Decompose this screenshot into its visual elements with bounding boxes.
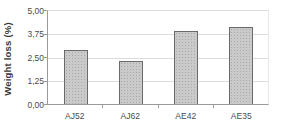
bar <box>119 61 143 104</box>
bars-container <box>48 11 268 104</box>
y-tick-label: 5,00 <box>14 6 44 16</box>
bar-cell <box>103 11 158 104</box>
x-axis-tick <box>158 105 159 108</box>
bar-cell <box>48 11 103 104</box>
bar <box>229 27 253 104</box>
y-axis-title: Weight loss (%) <box>2 4 14 114</box>
bar-chart: Weight loss (%) 5,00 3,75 2,50 1,25 0,00… <box>0 0 281 134</box>
x-tick-label: AE35 <box>214 111 270 123</box>
bar <box>174 31 198 104</box>
y-tick-label: 3,75 <box>14 29 44 39</box>
y-tick-label: 2,50 <box>14 53 44 63</box>
bar <box>64 50 88 104</box>
x-tick-label: AJ52 <box>47 111 103 123</box>
y-tick-label: 1,25 <box>14 76 44 86</box>
x-axis-tick <box>213 105 214 108</box>
x-axis-tick <box>102 105 103 108</box>
x-axis-labels: AJ52 AJ62 AE42 AE35 <box>47 111 269 123</box>
plot-area <box>47 10 269 105</box>
y-tick-label: 0,00 <box>14 100 44 110</box>
bar-cell <box>213 11 268 104</box>
x-tick-label: AE42 <box>158 111 214 123</box>
bar-cell <box>158 11 213 104</box>
x-tick-label: AJ62 <box>103 111 159 123</box>
